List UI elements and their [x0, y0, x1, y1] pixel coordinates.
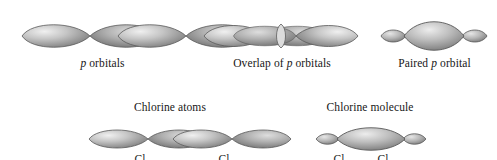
overlap-p-orbitals-graphic [198, 16, 364, 56]
atom-label-cl-2: Cl [212, 153, 236, 160]
heading-chlorine-molecule: Chlorine molecule [300, 101, 440, 114]
caption-p-orbitals: p orbitals [0, 57, 205, 70]
orbital-overlap-diagram: p orbitals Overlap of p orbitals [0, 0, 497, 160]
paired-small-lobe-right [462, 30, 487, 42]
caption-suffix: orbitals [293, 57, 331, 69]
chlorine-atom-orbital-2 [173, 130, 291, 148]
caption-paired-p-orbital: Paired p orbital [372, 57, 497, 70]
paired-p-orbital-svg [376, 13, 492, 59]
heading-chlorine-atoms: Chlorine atoms [105, 101, 235, 114]
caption-suffix: orbital [437, 57, 471, 69]
molecule-label-cl-2: Cl [372, 153, 394, 160]
paired-p-orbital-graphic [376, 13, 492, 59]
chlorine-atoms-graphic [82, 122, 258, 156]
paired-central-lens [404, 22, 464, 51]
paired-small-lobe-left [381, 30, 406, 42]
molecule-small-lobe-left [316, 134, 339, 145]
caption-prefix: Overlap of [233, 57, 286, 69]
molecule-bond-symbol: — [350, 153, 372, 160]
caption-overlap-p-orbitals: Overlap of p orbitals [196, 57, 368, 70]
chlorine-molecule-graphic [309, 122, 433, 156]
molecule-small-lobe-right [403, 134, 426, 145]
p-orbitals-graphic [14, 16, 192, 56]
caption-suffix: orbitals [86, 57, 124, 69]
caption-prefix: Paired [398, 57, 431, 69]
p-orbitals-svg [14, 16, 192, 56]
chlorine-molecule-svg [309, 122, 433, 156]
chlorine-atoms-svg [82, 122, 258, 156]
molecule-central-lens [337, 128, 405, 151]
atom-label-cl-1: Cl [128, 153, 152, 160]
overlap-intersection-lens [277, 24, 286, 48]
molecule-label-cl-1: Cl [328, 153, 350, 160]
overlap-p-orbitals-svg [198, 16, 364, 56]
